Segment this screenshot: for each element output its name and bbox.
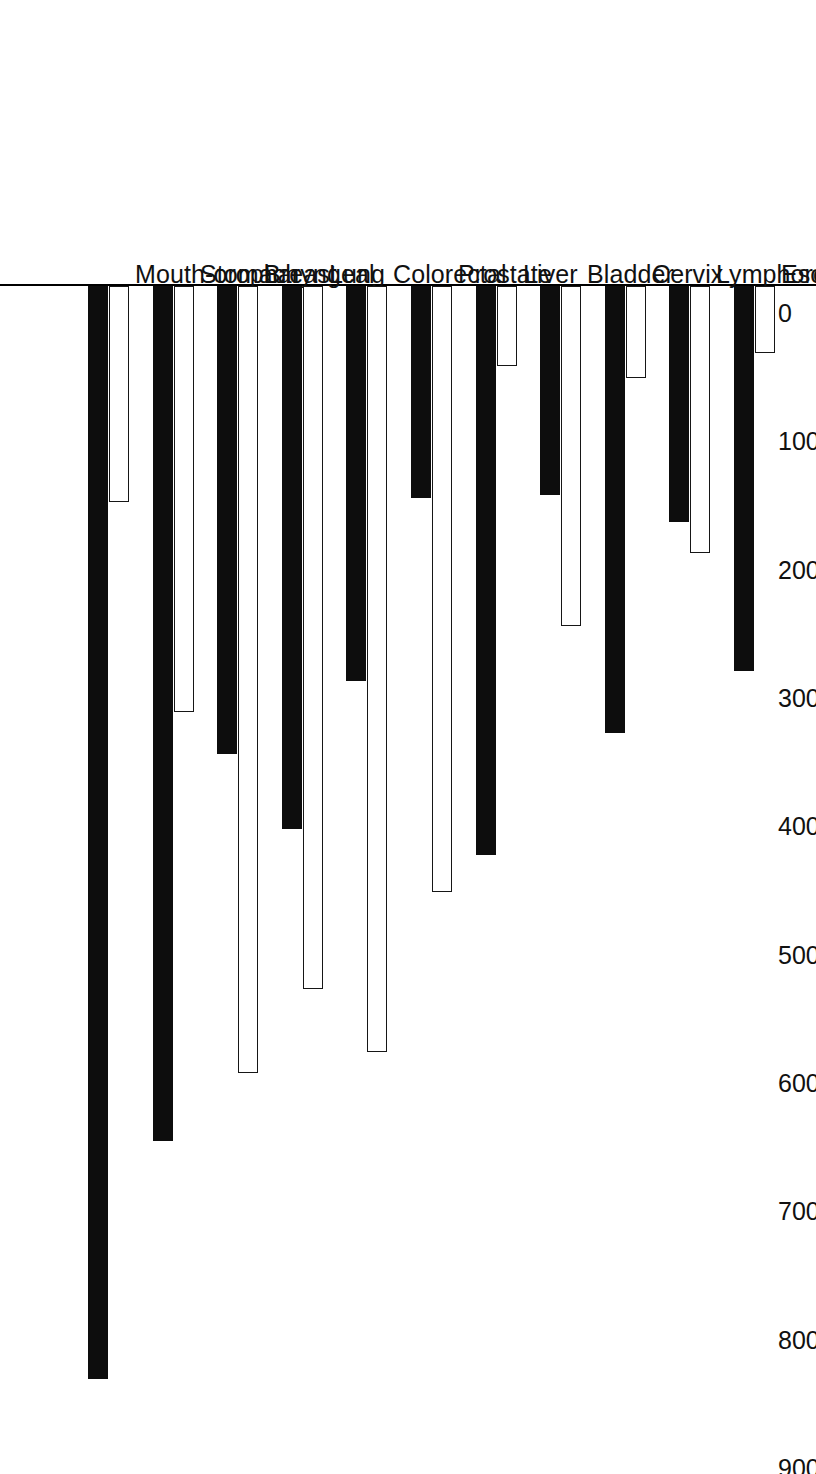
value-tick-label: 900 xyxy=(778,1454,816,1474)
plot-area: Mouth-oropharyngealStomachBreastLungColo… xyxy=(0,0,816,1474)
value-tick-label: 400 xyxy=(778,812,816,841)
bar-group xyxy=(0,0,816,1474)
category-label: Esophageal xyxy=(781,260,816,289)
bar-developing xyxy=(734,286,754,671)
value-tick-label: 800 xyxy=(778,1326,816,1355)
value-tick-label: 200 xyxy=(778,556,816,585)
bar-developed xyxy=(755,286,775,353)
value-tick-label: 600 xyxy=(778,1069,816,1098)
chart-stage: Mouth-oropharyngealStomachBreastLungColo… xyxy=(0,0,816,1474)
chart-page: { "chart_data": { "type": "bar", "orient… xyxy=(0,0,816,1474)
value-tick-label: 0 xyxy=(778,299,792,328)
value-tick-label: 500 xyxy=(778,941,816,970)
value-tick-label: 100 xyxy=(778,427,816,456)
value-tick-label: 300 xyxy=(778,684,816,713)
value-tick-label: 700 xyxy=(778,1197,816,1226)
